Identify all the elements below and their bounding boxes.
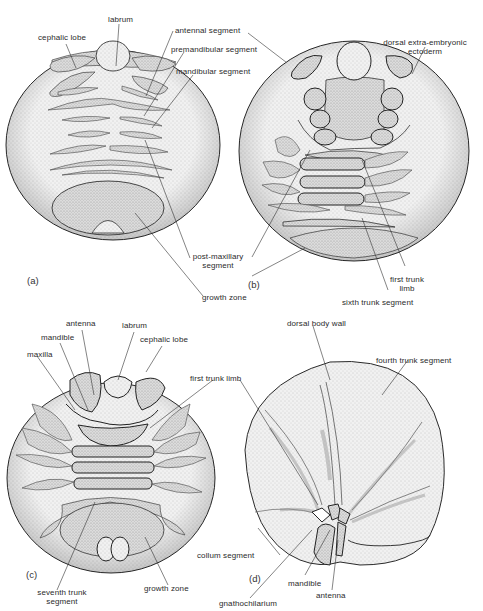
label-antenna-d: antenna <box>316 591 346 600</box>
label-cephalic-lobe-c: cephalic lobe <box>140 335 188 344</box>
label-fourth-trunk-segment: fourth trunk segment <box>376 356 451 365</box>
label-gnathochilarium: gnathochilarium <box>219 599 277 608</box>
label-growth-zone-c: growth zone <box>144 584 189 593</box>
label-mandible-c: mandible <box>41 333 74 342</box>
label-seventh-trunk-segment: seventh trunk segment <box>32 588 92 606</box>
label-post-maxillary-segment: post-maxillary segment <box>188 252 248 270</box>
label-cephalic-lobe-a: cephalic lobe <box>38 33 86 42</box>
panel-d-embryo <box>245 361 444 565</box>
panel-tag-b: (b) <box>248 279 260 290</box>
panel-tag-d: (d) <box>249 573 261 584</box>
label-dorsal-extra-embryonic-ectoderm: dorsal extra-embryonic ectoderm <box>375 38 475 56</box>
label-mandible-d: mandible <box>288 579 321 588</box>
panel-tag-c: (c) <box>26 569 37 580</box>
label-dorsal-body-wall: dorsal body wall <box>287 319 346 328</box>
label-maxilla: maxilla <box>27 350 53 359</box>
label-first-trunk-limb-c: first trunk limb <box>190 374 241 383</box>
label-premandibular-segment: premandibular segment <box>171 45 257 54</box>
embryo-development-figure: cephalic lobe labrum antennal segment pr… <box>0 0 483 611</box>
label-mandibular-segment: mandibular segment <box>176 67 250 76</box>
panel-b-embryo <box>239 41 469 261</box>
label-labrum-a: labrum <box>108 15 133 24</box>
label-sixth-trunk-segment: sixth trunk segment <box>342 298 413 307</box>
label-collum-segment: collum segment <box>197 551 254 560</box>
panel-tag-a: (a) <box>27 275 39 286</box>
label-first-trunk-limb-b: first trunk limb <box>385 275 429 293</box>
label-antennal-segment: antennal segment <box>175 26 240 35</box>
label-labrum-c: labrum <box>122 321 147 330</box>
label-growth-zone-ab: growth zone <box>202 293 247 302</box>
label-antenna-c: antenna <box>66 319 96 328</box>
